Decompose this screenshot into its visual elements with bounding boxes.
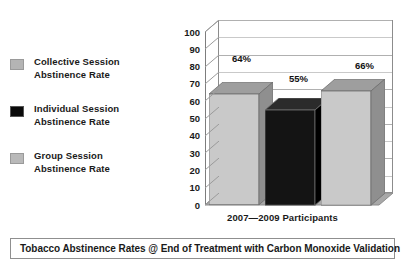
y-axis-tick-60: 60	[166, 97, 200, 106]
data-label-3: 66%	[355, 60, 374, 71]
y-axis-tick-30: 30	[166, 149, 200, 158]
black-swatch-icon	[10, 106, 24, 117]
chart-legend: Collective Session Abstinence Rate Indiv…	[10, 56, 160, 197]
y-axis-tick-0: 0	[166, 201, 200, 210]
y-tick-mark-20	[205, 158, 220, 172]
y-tick-mark-60	[205, 89, 220, 103]
legend-item-label: Individual Session Abstinence Rate	[34, 103, 119, 128]
legend-item-label: Collective Session Abstinence Rate	[34, 56, 120, 81]
y-tick-mark-80	[205, 55, 220, 69]
bar-3	[321, 79, 385, 205]
data-label-2: 55%	[289, 73, 308, 84]
legend-label-line1: Individual Session	[34, 103, 119, 114]
y-axis-tick-90: 90	[166, 45, 200, 54]
bar-chart: 1009080706050403020100 64%55%66%	[165, 20, 400, 210]
y-axis-tick-labels: 1009080706050403020100	[165, 20, 200, 198]
y-axis-tick-70: 70	[166, 79, 200, 88]
gray-swatch-icon	[10, 153, 24, 164]
y-axis-tick-40: 40	[166, 131, 200, 140]
y-axis-tick-20: 20	[166, 166, 200, 175]
legend-item-group: Group Session Abstinence Rate	[10, 150, 160, 175]
gridline-100	[218, 20, 392, 21]
y-tick-mark-50	[205, 107, 220, 121]
y-tick-mark-30	[205, 141, 220, 155]
y-tick-mark-40	[205, 124, 220, 138]
legend-label-line2: Abstinence Rate	[34, 116, 110, 127]
cropped-header-text	[0, 0, 405, 6]
y-axis-tick-100: 100	[166, 28, 200, 37]
y-tick-mark-0	[205, 193, 220, 207]
y-tick-mark-100	[205, 20, 220, 34]
y-tick-mark-90	[205, 37, 220, 51]
y-tick-mark-10	[205, 176, 220, 190]
legend-label-line2: Abstinence Rate	[34, 69, 110, 80]
gray-swatch-icon	[10, 59, 24, 70]
legend-item-individual: Individual Session Abstinence Rate	[10, 103, 160, 128]
legend-label-line2: Abstinence Rate	[34, 163, 110, 174]
y-axis-tick-80: 80	[166, 62, 200, 71]
x-axis-label: 2007—2009 Participants	[165, 212, 400, 223]
y-axis-tick-10: 10	[166, 183, 200, 192]
bar-2	[265, 98, 329, 205]
y-tick-mark-70	[205, 72, 220, 86]
gridline-90	[218, 37, 392, 38]
legend-label-line1: Collective Session	[34, 56, 120, 67]
legend-label-line1: Group Session	[34, 150, 103, 161]
figure-caption-text: Tobacco Abstinence Rates @ End of Treatm…	[20, 243, 400, 254]
legend-item-label: Group Session Abstinence Rate	[34, 150, 110, 175]
y-axis-tick-50: 50	[166, 114, 200, 123]
plot-area	[205, 20, 393, 205]
data-label-1: 64%	[232, 53, 251, 64]
legend-item-collective: Collective Session Abstinence Rate	[10, 56, 160, 81]
figure-caption-box: Tobacco Abstinence Rates @ End of Treatm…	[10, 238, 395, 259]
